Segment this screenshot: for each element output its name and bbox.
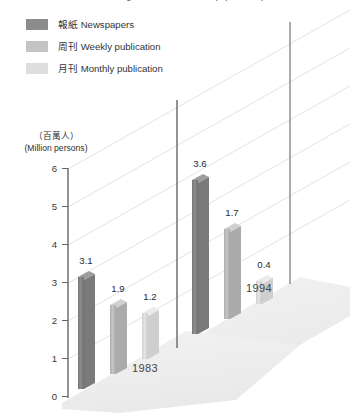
bar-1983-newspapers	[78, 271, 95, 389]
y-tick-5: 5	[35, 202, 57, 212]
y-axis-caption: （百萬人） (Million persons)	[4, 131, 108, 154]
bar-1983-monthly	[142, 307, 159, 359]
y-tick-4: 4	[35, 240, 57, 250]
bar-value-1983-weekly: 1.9	[104, 283, 132, 294]
plot-area: （百萬人） (Million persons) 6 5 4 3 2 1 0 3.…	[0, 0, 350, 414]
y-tick-3: 3	[35, 278, 57, 288]
bar-value-1983-monthly: 1.2	[136, 291, 164, 302]
y-axis-caption-en: (Million persons)	[24, 143, 87, 153]
chart-container: Number of readers aged 9 or above of new…	[0, 0, 350, 414]
bar-value-1994-newspapers: 3.6	[186, 158, 214, 169]
bar-1994-newspapers	[192, 174, 209, 334]
y-tick-1: 1	[35, 354, 57, 364]
bar-1994-weekly	[224, 223, 241, 319]
floor-plane-front	[62, 331, 300, 413]
y-tick-6: 6	[35, 164, 57, 174]
group-label-1994: 1994	[246, 282, 272, 294]
y-tick-0: 0	[35, 392, 57, 402]
group-label-1983: 1983	[132, 362, 158, 374]
bar-value-1994-weekly: 1.7	[218, 207, 246, 218]
y-axis-caption-zh: （百萬人）	[34, 131, 79, 141]
axis-ticks	[62, 169, 68, 397]
bar-value-1994-monthly: 0.4	[250, 259, 278, 270]
y-tick-2: 2	[35, 316, 57, 326]
bar-1983-weekly	[110, 299, 127, 374]
bar-value-1983-newspapers: 3.1	[72, 255, 100, 266]
